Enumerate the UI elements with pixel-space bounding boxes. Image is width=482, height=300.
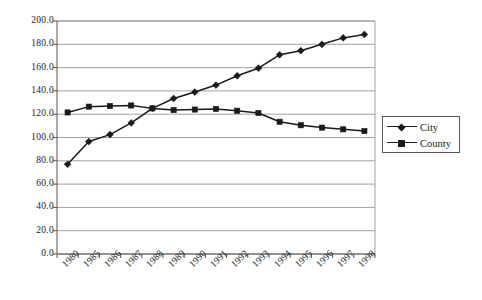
chart-legend: City County xyxy=(382,116,460,153)
x-axis-tick-label: 1998 xyxy=(356,248,377,269)
x-axis-tick-label: 1991 xyxy=(208,248,229,269)
legend-label-city: City xyxy=(420,122,438,133)
legend-item-county[interactable]: County xyxy=(387,135,451,151)
legend-marker-diamond-icon xyxy=(387,121,417,133)
x-axis-tick-label: 1990 xyxy=(187,248,208,269)
legend-item-city[interactable]: City xyxy=(387,119,438,135)
x-axis-tick-label: 1995 xyxy=(293,248,314,269)
legend-marker-square-icon xyxy=(387,137,417,149)
x-axis-tick-label: 1997 xyxy=(335,248,356,269)
x-axis-tick-label: 1994 xyxy=(272,248,293,269)
line-chart: 200.0180.0160.0140.0120.0100.080.060.040… xyxy=(0,0,482,300)
x-axis-tick-label: 1980 xyxy=(60,248,81,269)
x-axis-tick-label: 1987 xyxy=(123,248,144,269)
x-axis-tick-label: 1996 xyxy=(314,248,335,269)
x-axis-tick-label: 1988 xyxy=(144,248,165,269)
x-axis-tick-label: 1992 xyxy=(229,248,250,269)
x-axis-tick-label: 1989 xyxy=(166,248,187,269)
x-axis-tick-label: 1993 xyxy=(250,248,271,269)
legend-label-county: County xyxy=(420,138,451,149)
x-axis-tick-label: 1986 xyxy=(102,248,123,269)
x-axis-tick-label: 1985 xyxy=(81,248,102,269)
